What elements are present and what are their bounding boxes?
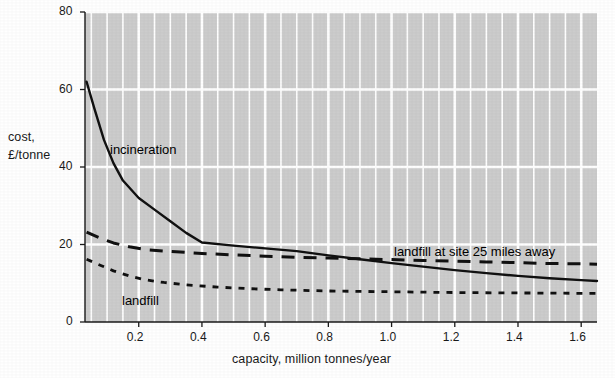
y-axis-label-line2: £/tonne: [8, 146, 50, 164]
incineration-label: incineration: [110, 142, 177, 157]
y-tick-label: 80: [59, 4, 72, 18]
x-tick-label: 0.4: [190, 330, 207, 344]
x-tick-label: 1.2: [443, 330, 460, 344]
y-axis-label: cost, £/tonne: [8, 128, 50, 164]
y-tick-label: 0: [66, 314, 73, 328]
cost-vs-capacity-chart: [0, 0, 615, 378]
y-axis-label-line1: cost,: [8, 128, 50, 146]
x-tick-label: 1.4: [506, 330, 523, 344]
y-tick-label: 20: [59, 237, 72, 251]
x-tick-label: 0.2: [127, 330, 144, 344]
landfill-25-miles-label: landfill at site 25 miles away: [394, 244, 555, 259]
y-tick-label: 40: [59, 159, 72, 173]
chart-canvas: cost, £/tonne capacity, million tonnes/y…: [0, 0, 615, 378]
x-tick-label: 0.6: [253, 330, 270, 344]
x-tick-label: 0.8: [316, 330, 333, 344]
x-tick-label: 1.6: [569, 330, 586, 344]
y-tick-label: 60: [59, 82, 72, 96]
landfill-label: landfill: [122, 293, 159, 308]
x-tick-label: 1.0: [380, 330, 397, 344]
x-axis-label: capacity, million tonnes/year: [232, 352, 391, 366]
